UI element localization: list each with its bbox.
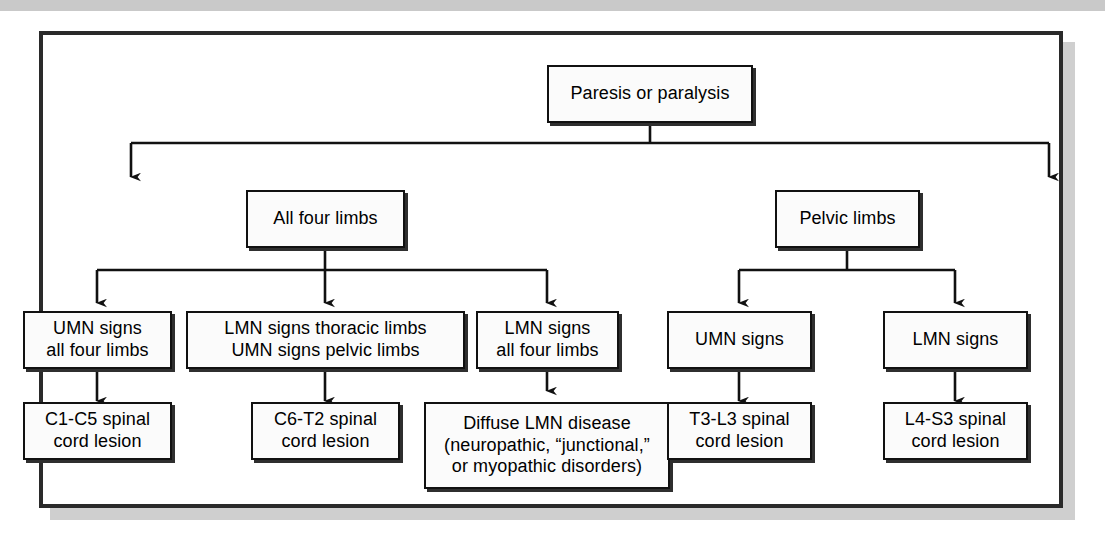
node-l4-s3-spinal-cord-lesion[interactable]: L4-S3 spinal cord lesion [883,402,1028,460]
page-top-band [0,0,1105,11]
node-umn-signs-all-four-limbs[interactable]: UMN signs all four limbs [23,311,172,369]
node-label: Diffuse LMN disease (neuropathic, “junct… [430,413,664,479]
node-label: UMN signs all four limbs [29,318,166,362]
node-label: LMN signs thoracic limbs UMN signs pelvi… [192,318,459,362]
figure-page: Paresis or paralysis All four limbs Pelv… [0,0,1105,555]
node-t3-l3-spinal-cord-lesion[interactable]: T3-L3 spinal cord lesion [667,402,812,460]
node-label: Paresis or paralysis [553,83,747,105]
node-label: C1-C5 spinal cord lesion [29,409,166,453]
node-label: L4-S3 spinal cord lesion [889,409,1022,453]
node-c1-c5-spinal-cord-lesion[interactable]: C1-C5 spinal cord lesion [23,402,172,460]
node-diffuse-lmn-disease[interactable]: Diffuse LMN disease (neuropathic, “junct… [424,402,670,489]
node-c6-t2-spinal-cord-lesion[interactable]: C6-T2 spinal cord lesion [251,402,400,460]
node-all-four-limbs[interactable]: All four limbs [246,190,405,248]
flowchart-canvas: Paresis or paralysis All four limbs Pelv… [39,31,1063,508]
node-label: Pelvic limbs [781,208,914,230]
node-lmn-thoracic-umn-pelvic[interactable]: LMN signs thoracic limbs UMN signs pelvi… [186,311,465,369]
node-label: C6-T2 spinal cord lesion [257,409,394,453]
node-label: T3-L3 spinal cord lesion [673,409,806,453]
node-lmn-signs-all-four-limbs[interactable]: LMN signs all four limbs [476,311,619,369]
node-pelvic-limbs[interactable]: Pelvic limbs [775,190,920,248]
node-label: All four limbs [252,208,399,230]
node-paresis-or-paralysis[interactable]: Paresis or paralysis [547,65,753,123]
node-umn-signs[interactable]: UMN signs [667,311,812,369]
node-label: UMN signs [673,329,806,351]
node-lmn-signs[interactable]: LMN signs [883,311,1028,369]
node-label: LMN signs all four limbs [482,318,613,362]
node-label: LMN signs [889,329,1022,351]
